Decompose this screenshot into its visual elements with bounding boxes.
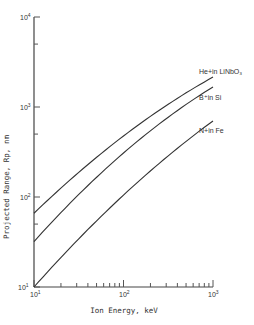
x-tick-label-1e3: 103 bbox=[208, 289, 219, 298]
curve-b-in-si bbox=[34, 87, 213, 242]
series-label-he-in-linbo3: He+in LiNbO₃ bbox=[199, 68, 242, 75]
x-tick-label-1e1: 101 bbox=[30, 289, 41, 298]
y-axis-ticks bbox=[34, 17, 40, 287]
x-axis-ticks bbox=[34, 280, 213, 287]
curve-he-in-linbo3 bbox=[34, 77, 213, 213]
range-energy-chart: 104 103 102 101 101 102 103 Ion Energy, … bbox=[0, 0, 254, 325]
y-tick-label-1e4: 104 bbox=[20, 12, 31, 21]
y-axis-label: Projected Range, Rp, nm bbox=[2, 135, 11, 239]
data-curves bbox=[34, 77, 213, 287]
y-tick-labels: 104 103 102 101 bbox=[18, 12, 31, 291]
series-label-n-in-fe: N+in Fe bbox=[199, 127, 224, 134]
y-tick-label-1e3: 103 bbox=[20, 102, 31, 111]
x-tick-label-1e2: 102 bbox=[119, 289, 130, 298]
y-tick-label-1e2: 102 bbox=[20, 192, 31, 201]
x-tick-labels: 101 102 103 bbox=[30, 289, 219, 298]
y-tick-label-1e1: 101 bbox=[18, 282, 29, 291]
series-label-b-in-si: B⁺in Si bbox=[199, 94, 222, 101]
curve-n-in-fe bbox=[34, 121, 213, 287]
x-axis-label: Ion Energy, keV bbox=[90, 306, 158, 315]
